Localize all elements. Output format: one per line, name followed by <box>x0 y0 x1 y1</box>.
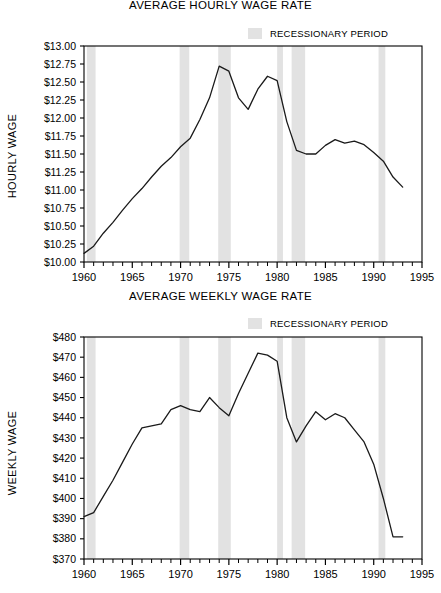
y-tick-label: $11.75 <box>45 130 76 142</box>
data-series-line <box>84 353 403 537</box>
y-tick-label: $380 <box>53 532 77 544</box>
recession-band <box>180 337 190 559</box>
recession-band <box>218 337 231 559</box>
x-tick-label: 1965 <box>120 271 144 283</box>
y-tick-label: $440 <box>53 411 77 423</box>
y-tick-label: $12.50 <box>44 76 76 88</box>
chart-weekly-wage: AVERAGE WEEKLY WAGE RATE RECESSIONARY PE… <box>0 297 441 593</box>
y-tick-label: $11.00 <box>45 184 76 196</box>
recession-band <box>277 337 283 559</box>
x-tick-label: 1965 <box>120 568 144 580</box>
x-tick-label: 1980 <box>265 568 289 580</box>
x-tick-label: 1990 <box>361 271 385 283</box>
y-tick-label: $390 <box>53 512 77 524</box>
x-tick-label: 1960 <box>72 568 96 580</box>
y-tick-label: $11.25 <box>45 166 76 178</box>
y-tick-label: $10.00 <box>44 256 76 268</box>
recession-band <box>218 46 231 262</box>
y-tick-label: $12.25 <box>44 94 76 106</box>
x-tick-label: 1960 <box>72 271 96 283</box>
y-tick-label: $460 <box>53 371 77 383</box>
chart-weekly-svg: $480$470$460$450$440$430$420$410$400$390… <box>0 297 441 593</box>
x-tick-label: 1970 <box>168 568 192 580</box>
x-tick-label: 1995 <box>410 271 434 283</box>
y-tick-label: $480 <box>53 331 77 343</box>
x-tick-label: 1985 <box>313 568 337 580</box>
recession-band <box>180 46 190 262</box>
chart-hourly-wage: AVERAGE HOURLY WAGE RATE RECESSIONARY PE… <box>0 0 441 300</box>
y-tick-label: $430 <box>53 432 77 444</box>
chart-hourly-svg: $13.00$12.75$12.50$12.25$12.00$11.75$11.… <box>0 0 441 300</box>
y-tick-label: $13.00 <box>44 40 76 52</box>
y-tick-label: $12.75 <box>44 58 76 70</box>
y-tick-label: $12.00 <box>44 112 76 124</box>
x-tick-label: 1995 <box>410 568 434 580</box>
y-tick-label: $410 <box>53 472 77 484</box>
recession-band <box>292 46 306 262</box>
y-tick-label: $470 <box>53 351 77 363</box>
y-tick-label: $420 <box>53 452 77 464</box>
y-tick-label: $10.75 <box>44 202 76 214</box>
y-tick-label: $370 <box>53 553 77 565</box>
recession-band <box>277 46 283 262</box>
plot-area-weekly: $480$470$460$450$440$430$420$410$400$390… <box>0 297 441 593</box>
x-tick-label: 1975 <box>217 568 241 580</box>
y-tick-label: $10.50 <box>44 220 76 232</box>
x-tick-label: 1990 <box>361 568 385 580</box>
x-tick-label: 1970 <box>168 271 192 283</box>
recession-band <box>87 337 96 559</box>
plot-area-hourly: $13.00$12.75$12.50$12.25$12.00$11.75$11.… <box>0 0 441 300</box>
data-series-line <box>84 66 403 253</box>
recession-band <box>292 337 306 559</box>
y-tick-label: $400 <box>53 492 77 504</box>
recession-band <box>87 46 96 262</box>
y-tick-label: $11.50 <box>45 148 76 160</box>
y-tick-label: $10.25 <box>44 238 76 250</box>
recession-band <box>379 337 386 559</box>
x-tick-label: 1985 <box>313 271 337 283</box>
plot-frame <box>84 46 422 262</box>
x-tick-label: 1980 <box>265 271 289 283</box>
y-tick-label: $450 <box>53 391 77 403</box>
recession-band <box>379 46 386 262</box>
plot-frame <box>84 337 422 559</box>
x-tick-label: 1975 <box>217 271 241 283</box>
